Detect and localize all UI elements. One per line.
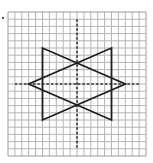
grid-diagram (0, 0, 153, 163)
symmetry-axes (15, 19, 139, 149)
